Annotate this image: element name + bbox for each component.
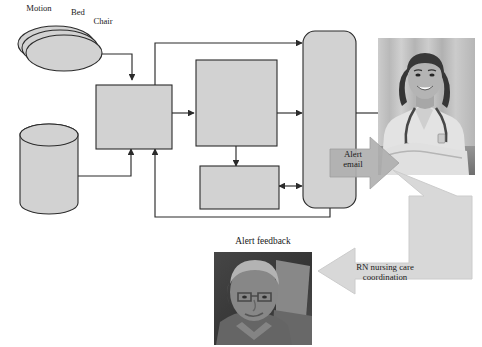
alert-email-arrow [330,137,399,189]
diagram-canvas: Motion Bed Chair Sensors EHR Integration… [0,0,482,347]
alert-email-layer [0,0,482,347]
